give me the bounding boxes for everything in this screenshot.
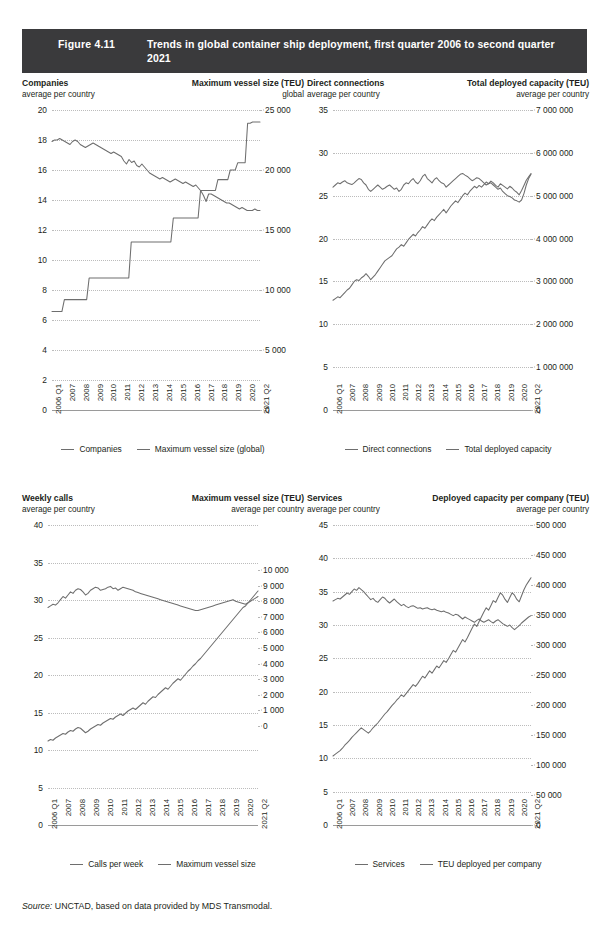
y2-axis-tick (531, 555, 535, 556)
y-axis-tick-label: 30 (319, 149, 333, 157)
x-axis-tick-label: 2017 (481, 384, 489, 401)
y-axis-tick-label: 25 (34, 633, 48, 641)
x-axis-tick-label: 2019 (508, 799, 516, 816)
legend-line-icon (345, 449, 358, 450)
x-axis-tick-label: 2010 (389, 384, 397, 401)
right-axis-subtitle: global (192, 89, 304, 100)
x-axis-tick-label: 2012 (415, 799, 423, 816)
right-axis-title: Total deployed capacity (TEU) (467, 78, 589, 89)
x-axis-tick-label: 2011 (402, 384, 410, 401)
y2-axis-tick-label: 20 000 (260, 166, 291, 174)
x-axis-tick-label: 2008 (83, 384, 91, 401)
x-axis-tick-label: 2012 (415, 384, 423, 401)
y2-axis-tick (531, 645, 535, 646)
x-axis-tick-label: 2011 (124, 384, 132, 401)
source-note: Source: UNCTAD, based on data provided b… (22, 901, 272, 911)
x-axis-tick-label: 2006 Q1 (336, 799, 344, 829)
y2-axis-tick (531, 585, 535, 586)
y2-axis-tick-label: 5 000 000 (531, 192, 573, 200)
y-axis-tick-label: 30 (319, 621, 333, 629)
x-axis-tick-label: 2018 (219, 799, 227, 816)
series-line (333, 173, 531, 300)
chart-direct-connections-capacity: Direct connections average per country T… (307, 78, 589, 478)
left-axis-title: Services (307, 493, 380, 504)
legend-item: Total deployed capacity (446, 444, 551, 454)
y2-axis-tick (258, 585, 262, 586)
x-axis: 2006 Q1200720082009201020112012201320142… (333, 799, 531, 853)
source-text: UNCTAD, based on data provided by MDS Tr… (52, 901, 272, 911)
legend-label: TEU deployed per company (438, 859, 542, 869)
legend-line-icon (420, 864, 433, 865)
y-axis-tick-label: 35 (319, 106, 333, 114)
y-axis-tick-label: 5 (323, 787, 333, 795)
y-axis-tick-label: 15 (319, 277, 333, 285)
y2-axis-tick (260, 290, 264, 291)
x-axis-tick-label: 2014 (442, 799, 450, 816)
legend-label: Calls per week (88, 859, 143, 869)
legend-label: Direct connections (363, 444, 432, 454)
x-axis-tick-label: 2019 (235, 384, 243, 401)
chart-header: Direct connections average per country T… (307, 78, 589, 104)
x-axis-tick-label: 2009 (93, 799, 101, 816)
y2-axis-tick (531, 525, 535, 526)
x-axis-tick-label: 2017 (208, 384, 216, 401)
y-axis-tick-label: 25 (319, 654, 333, 662)
legend-label: Maximum vessel size (global) (155, 444, 265, 454)
left-axis-subtitle: average per country (22, 504, 95, 515)
y-axis-tick-label: 10 (38, 256, 52, 264)
y2-axis-tick-label: 10 000 (258, 566, 289, 574)
y2-axis-tick (531, 615, 535, 616)
y2-axis-tick (531, 705, 535, 706)
series-line (48, 591, 258, 741)
x-axis-tick-label: 2015 (455, 384, 463, 401)
left-axis-subtitle: average per country (307, 89, 384, 100)
x-axis-tick-label: 2020 (247, 799, 255, 816)
y-axis-tick-label: 0 (323, 406, 333, 414)
x-axis-tick-label: 2020 (521, 384, 529, 401)
y2-axis-tick (531, 765, 535, 766)
y2-axis-tick-label: 500 000 (531, 521, 566, 529)
y-axis-tick-label: 10 (34, 746, 48, 754)
legend-line-icon (355, 864, 368, 865)
y2-axis-tick-label: 3 000 000 (531, 277, 573, 285)
legend-line-icon (70, 864, 83, 865)
legend-item: Maximum vessel size (158, 859, 256, 869)
y2-axis-tick-label: 1 000 000 (531, 363, 573, 371)
left-axis-title: Weekly calls (22, 493, 95, 504)
y2-axis-tick (531, 675, 535, 676)
plot-canvas: 051015202530354045050 000100 000150 0002… (333, 525, 531, 825)
figure-title-bar: Figure 4.11 Trends in global container s… (22, 29, 587, 73)
series-layer (333, 110, 531, 410)
y2-axis-tick (258, 726, 262, 727)
y2-axis-tick (258, 648, 262, 649)
x-axis-tick-label: 2010 (110, 384, 118, 401)
right-axis-subtitle: average per country (467, 89, 589, 100)
y-axis-tick-label: 0 (38, 821, 48, 829)
y-axis-tick-label: 20 (319, 687, 333, 695)
left-axis-subtitle: average per country (307, 504, 380, 515)
x-axis: 2006 Q1200720082009201020112012201320142… (333, 384, 531, 438)
y-axis-tick-label: 5 (323, 363, 333, 371)
legend: Calls per weekMaximum vessel size (22, 859, 304, 869)
y-axis-tick-label: 40 (319, 554, 333, 562)
y-axis-tick-label: 30 (34, 596, 48, 604)
x-axis-tick-label: 2006 Q1 (55, 384, 63, 414)
chart-header: Companies average per country Maximum ve… (22, 78, 304, 104)
y2-axis-tick-label: 250 000 (531, 671, 566, 679)
plot-area: 051015202530354045050 000100 000150 0002… (307, 525, 589, 825)
right-axis-subtitle: average per country (192, 504, 304, 515)
y-axis-tick-label: 10 (319, 754, 333, 762)
x-axis-tick-label: 2020 (521, 799, 529, 816)
chart-services-capacity-per-company: Services average per country Deployed ca… (307, 493, 589, 893)
right-axis-title-group: Maximum vessel size (TEU) global (192, 78, 304, 100)
plot-canvas: 0510152025303501 000 0002 000 0003 000 0… (333, 110, 531, 410)
x-axis-tick-label: 2016 (468, 384, 476, 401)
legend-line-icon (61, 449, 74, 450)
y2-axis-tick (258, 663, 262, 664)
y-axis-tick-label: 20 (38, 106, 52, 114)
y-axis-tick-label: 20 (34, 671, 48, 679)
legend-item: Companies (61, 444, 121, 454)
x-axis-tick-label: 2013 (149, 799, 157, 816)
y-axis-tick-label: 2 (42, 376, 52, 384)
legend-item: Services (355, 859, 405, 869)
